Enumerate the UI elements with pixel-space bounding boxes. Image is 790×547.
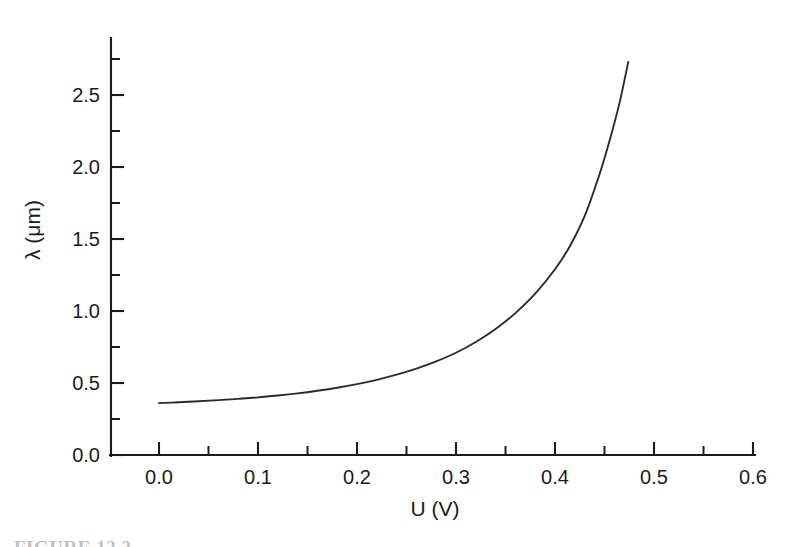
x-axis-major-ticks bbox=[159, 442, 753, 455]
x-axis-tick-labels: 0.00.10.20.30.40.50.6 bbox=[145, 466, 767, 488]
x-tick-label: 0.0 bbox=[145, 466, 173, 488]
y-axis-title: λ (μm) bbox=[21, 200, 44, 260]
y-tick-label: 2.0 bbox=[72, 156, 100, 178]
y-tick-label: 0.0 bbox=[72, 444, 100, 466]
x-axis-title: U (V) bbox=[411, 497, 460, 520]
x-tick-label: 0.6 bbox=[739, 466, 767, 488]
chart-canvas: 0.00.51.01.52.02.5 0.00.10.20.30.40.50.6… bbox=[0, 0, 790, 547]
y-tick-label: 0.5 bbox=[72, 372, 100, 394]
figure-root: 0.00.51.01.52.02.5 0.00.10.20.30.40.50.6… bbox=[0, 0, 790, 547]
x-tick-label: 0.5 bbox=[640, 466, 668, 488]
y-tick-label: 1.5 bbox=[72, 228, 100, 250]
data-series-line bbox=[159, 62, 628, 403]
x-tick-label: 0.1 bbox=[244, 466, 272, 488]
y-tick-label: 1.0 bbox=[72, 300, 100, 322]
figure-caption: FIGURE 12.2 bbox=[14, 538, 234, 547]
y-tick-label: 2.5 bbox=[72, 84, 100, 106]
y-axis-tick-labels: 0.00.51.01.52.02.5 bbox=[72, 84, 100, 466]
x-tick-label: 0.4 bbox=[541, 466, 569, 488]
x-tick-label: 0.3 bbox=[442, 466, 470, 488]
x-tick-label: 0.2 bbox=[343, 466, 371, 488]
